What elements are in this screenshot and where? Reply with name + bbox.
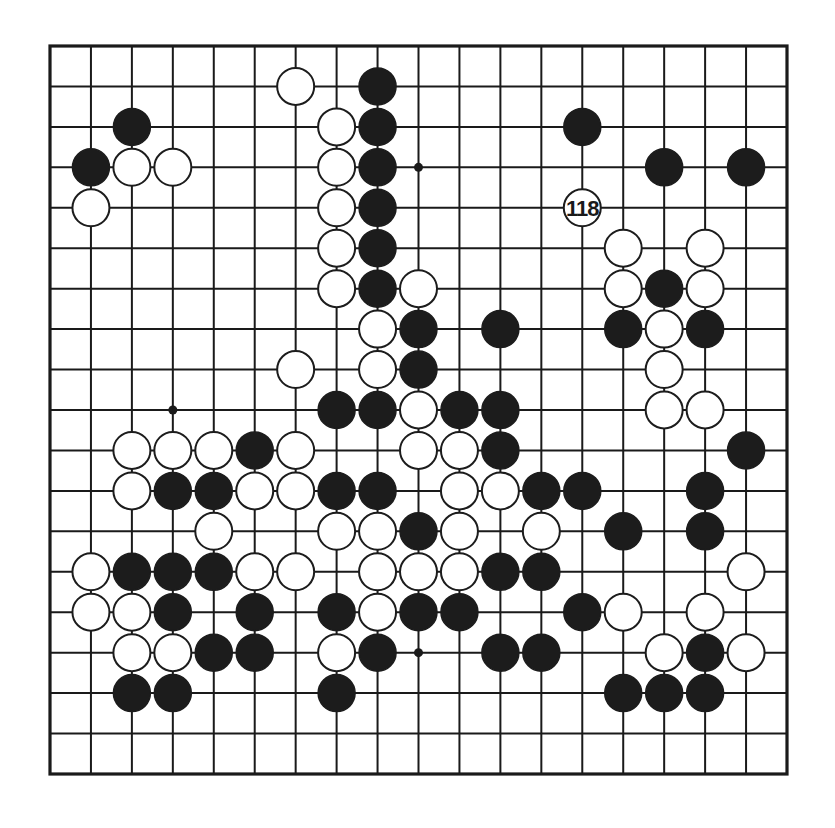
go-board[interactable]: 118 <box>0 0 835 828</box>
white-stone[interactable] <box>154 634 191 671</box>
black-stone[interactable] <box>195 634 232 671</box>
white-stone[interactable] <box>646 392 683 429</box>
black-stone[interactable] <box>564 108 601 145</box>
white-stone[interactable] <box>646 634 683 671</box>
black-stone[interactable] <box>646 675 683 712</box>
black-stone[interactable] <box>318 392 355 429</box>
white-stone[interactable] <box>195 513 232 550</box>
white-stone[interactable] <box>605 594 642 631</box>
black-stone[interactable] <box>113 675 150 712</box>
black-stone[interactable] <box>318 472 355 509</box>
black-stone[interactable] <box>523 634 560 671</box>
white-stone[interactable] <box>236 553 273 590</box>
white-stone[interactable] <box>687 270 724 307</box>
black-stone[interactable] <box>154 675 191 712</box>
black-stone[interactable] <box>728 432 765 469</box>
black-stone[interactable] <box>400 594 437 631</box>
white-stone[interactable] <box>154 432 191 469</box>
black-stone[interactable] <box>441 392 478 429</box>
black-stone[interactable] <box>687 513 724 550</box>
white-stone[interactable] <box>277 432 314 469</box>
white-stone[interactable] <box>441 472 478 509</box>
black-stone[interactable] <box>605 675 642 712</box>
white-stone[interactable] <box>441 553 478 590</box>
white-stone[interactable] <box>72 594 109 631</box>
black-stone[interactable] <box>400 351 437 388</box>
black-stone[interactable] <box>687 634 724 671</box>
black-stone[interactable] <box>687 675 724 712</box>
black-stone[interactable] <box>400 311 437 348</box>
white-stone[interactable] <box>646 351 683 388</box>
white-stone[interactable] <box>72 189 109 226</box>
white-stone[interactable] <box>318 634 355 671</box>
white-stone[interactable] <box>441 432 478 469</box>
black-stone[interactable] <box>359 230 396 267</box>
black-stone[interactable] <box>72 149 109 186</box>
black-stone[interactable] <box>564 594 601 631</box>
white-stone[interactable] <box>400 553 437 590</box>
white-stone[interactable] <box>318 270 355 307</box>
black-stone[interactable] <box>154 472 191 509</box>
white-stone[interactable] <box>359 594 396 631</box>
white-stone[interactable] <box>113 149 150 186</box>
black-stone[interactable] <box>359 270 396 307</box>
black-stone[interactable] <box>236 634 273 671</box>
black-stone[interactable] <box>523 472 560 509</box>
black-stone[interactable] <box>728 149 765 186</box>
white-stone[interactable] <box>113 634 150 671</box>
black-stone[interactable] <box>113 553 150 590</box>
white-stone[interactable] <box>318 108 355 145</box>
black-stone[interactable] <box>359 149 396 186</box>
black-stone[interactable] <box>482 634 519 671</box>
white-stone[interactable] <box>359 553 396 590</box>
white-stone[interactable] <box>113 432 150 469</box>
black-stone[interactable] <box>687 472 724 509</box>
black-stone[interactable] <box>687 311 724 348</box>
white-stone[interactable] <box>113 472 150 509</box>
white-stone[interactable] <box>277 553 314 590</box>
black-stone[interactable] <box>359 68 396 105</box>
black-stone[interactable] <box>482 553 519 590</box>
black-stone[interactable] <box>359 392 396 429</box>
white-stone[interactable] <box>400 392 437 429</box>
black-stone[interactable] <box>195 553 232 590</box>
black-stone[interactable] <box>400 513 437 550</box>
white-stone[interactable] <box>728 634 765 671</box>
white-stone[interactable] <box>646 311 683 348</box>
white-stone[interactable] <box>154 149 191 186</box>
black-stone[interactable] <box>195 472 232 509</box>
black-stone[interactable] <box>154 553 191 590</box>
white-stone[interactable] <box>728 553 765 590</box>
white-stone[interactable] <box>359 513 396 550</box>
black-stone[interactable] <box>359 108 396 145</box>
black-stone[interactable] <box>318 675 355 712</box>
black-stone[interactable] <box>482 311 519 348</box>
black-stone[interactable] <box>564 472 601 509</box>
white-stone[interactable] <box>113 594 150 631</box>
black-stone[interactable] <box>236 594 273 631</box>
white-stone[interactable] <box>318 149 355 186</box>
black-stone[interactable] <box>482 432 519 469</box>
white-stone[interactable] <box>605 270 642 307</box>
black-stone[interactable] <box>482 392 519 429</box>
white-stone[interactable] <box>687 594 724 631</box>
white-stone[interactable] <box>277 472 314 509</box>
black-stone[interactable] <box>113 108 150 145</box>
black-stone[interactable] <box>441 594 478 631</box>
white-stone[interactable] <box>687 392 724 429</box>
black-stone[interactable] <box>605 311 642 348</box>
black-stone[interactable] <box>605 513 642 550</box>
white-stone[interactable] <box>359 351 396 388</box>
white-stone[interactable] <box>72 553 109 590</box>
white-stone[interactable] <box>482 472 519 509</box>
white-stone[interactable] <box>523 513 560 550</box>
white-stone[interactable] <box>441 513 478 550</box>
white-stone[interactable] <box>400 270 437 307</box>
white-stone[interactable] <box>687 230 724 267</box>
black-stone[interactable] <box>523 553 560 590</box>
white-stone[interactable] <box>236 472 273 509</box>
white-stone[interactable] <box>277 351 314 388</box>
black-stone[interactable] <box>646 149 683 186</box>
black-stone[interactable] <box>236 432 273 469</box>
go-board-diagram[interactable]: 118 <box>0 0 835 828</box>
